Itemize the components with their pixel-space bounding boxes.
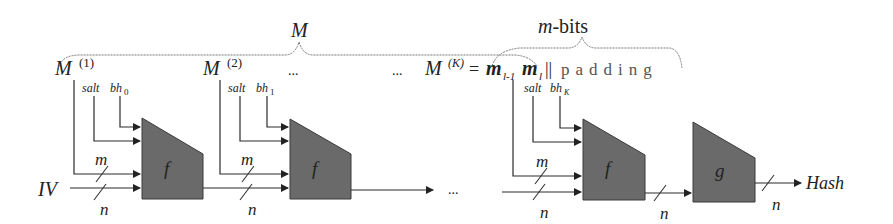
svg-text:salt: salt [524, 81, 542, 95]
svg-text:bh: bh [110, 81, 122, 95]
f-box-1: f [142, 118, 203, 199]
g-box: g [693, 122, 755, 202]
svg-text:=: = [469, 59, 479, 79]
stage-2-wires [203, 80, 288, 200]
block-k-label: M (K) = m l-1 m l || padding salt bh K [424, 56, 658, 97]
svg-text:0: 0 [124, 87, 129, 97]
svg-text:(1): (1) [79, 55, 94, 70]
block-1-label: M (1) salt bh 0 [54, 55, 129, 97]
ellipsis-1: ... [288, 63, 299, 78]
svg-text:padding: padding [561, 60, 658, 79]
svg-text:1: 1 [270, 87, 275, 97]
svg-text:M: M [54, 57, 73, 79]
block-2-label: M (2) salt bh 1 [202, 55, 275, 97]
wire-label-m-k: m [536, 152, 548, 171]
wire-label-n-k: n [540, 203, 549, 222]
m-bits-suffix: -bits [552, 15, 588, 37]
wire-label-n-out: n [772, 195, 781, 214]
f-to-g-wire [645, 185, 691, 201]
svg-text:bh: bh [550, 81, 562, 95]
wire-label-n-fg: n [660, 204, 669, 223]
f-box-2: f [290, 119, 351, 199]
ellipsis-chain: ... [448, 182, 459, 197]
m-bits-label: m-bits [538, 15, 588, 37]
message-label: M [290, 19, 309, 41]
wire-label-n-1: n [100, 200, 109, 219]
wire-label-m-1: m [95, 150, 107, 169]
f-box-k: f [583, 119, 645, 200]
svg-text:M: M [424, 57, 443, 79]
svg-text:salt: salt [228, 81, 246, 95]
ellipsis-2: ... [392, 63, 403, 78]
svg-text:(2): (2) [227, 55, 242, 70]
svg-text:bh: bh [256, 81, 268, 95]
hash-output-label: Hash [805, 173, 844, 193]
wire-label-m-2: m [241, 150, 253, 169]
g-label: g [715, 160, 725, 181]
hash-construction-diagram: M m-bits M (1) salt bh 0 M (2) salt bh 1… [0, 0, 893, 224]
svg-text:K: K [563, 88, 570, 97]
iv-label: IV [37, 178, 60, 200]
svg-text:(K): (K) [448, 56, 464, 70]
g-to-hash-wire [755, 175, 801, 191]
svg-text:salt: salt [82, 81, 100, 95]
svg-text:m: m [522, 57, 538, 79]
svg-text:||: || [545, 59, 552, 79]
stage-k-wires [502, 80, 581, 200]
svg-text:M: M [202, 57, 221, 79]
svg-text:m: m [486, 57, 502, 79]
wire-label-n-2: n [248, 200, 257, 219]
stage-1-wires [70, 80, 140, 200]
